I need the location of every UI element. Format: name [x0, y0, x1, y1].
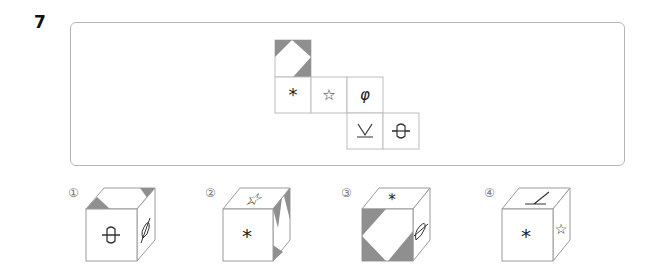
- option-3[interactable]: ③ *: [341, 186, 430, 261]
- svg-text:*: *: [521, 224, 531, 248]
- net-face-phi: φ: [347, 77, 383, 113]
- svg-text:φ: φ: [360, 86, 370, 104]
- option-4[interactable]: ④ ☆ *: [484, 186, 570, 261]
- svg-text:*: *: [289, 84, 298, 105]
- svg-text:☆: ☆: [322, 86, 335, 104]
- svg-text:*: *: [242, 224, 252, 248]
- svg-text:☆: ☆: [555, 221, 568, 237]
- svg-text:②: ②: [205, 186, 216, 200]
- cube-net: * ☆ φ: [275, 40, 419, 149]
- net-face-capsule: [383, 113, 419, 149]
- svg-text:①: ①: [68, 186, 79, 200]
- diagram-canvas: * ☆ φ ① ② ☆: [0, 0, 654, 273]
- svg-text:③: ③: [341, 186, 352, 200]
- net-face-star: ☆: [311, 77, 347, 113]
- svg-text:*: *: [388, 191, 396, 209]
- net-face-veebar: [347, 113, 383, 149]
- option-2[interactable]: ② ☆ *: [205, 186, 290, 261]
- net-face-asterisk: *: [275, 77, 311, 113]
- option-1[interactable]: ①: [68, 186, 155, 261]
- svg-text:④: ④: [484, 186, 495, 200]
- net-face-top: [275, 40, 311, 77]
